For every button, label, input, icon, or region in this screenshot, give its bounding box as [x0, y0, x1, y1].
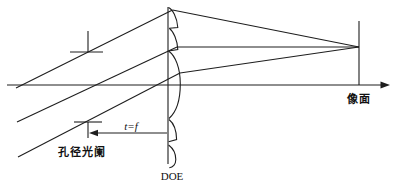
converging-ray-bottom [180, 47, 359, 73]
optical-axis [7, 82, 390, 89]
converging-ray-top [173, 10, 360, 47]
doe-zone-5 [169, 145, 176, 168]
converging-rays [173, 10, 360, 73]
optical-system-diagram: 孔径光阑 t=f DOE 像面 [0, 0, 394, 186]
doe-label: DOE [161, 170, 184, 182]
dimension-left-arrowhead-icon [89, 130, 98, 136]
axis-arrowhead-icon [381, 82, 391, 89]
aperture-stop-label: 孔径光阑 [58, 145, 106, 158]
image-plane-label: 像面 [347, 92, 371, 105]
doe-element [168, 7, 180, 168]
incoming-ray-top [16, 10, 173, 88]
doe-zone-4 [169, 120, 177, 142]
diagram-canvas: 孔径光阑 t=f DOE 像面 [0, 0, 394, 186]
stop-to-doe-distance-label: t=f [124, 120, 139, 132]
incoming-ray-bottom [18, 73, 180, 157]
